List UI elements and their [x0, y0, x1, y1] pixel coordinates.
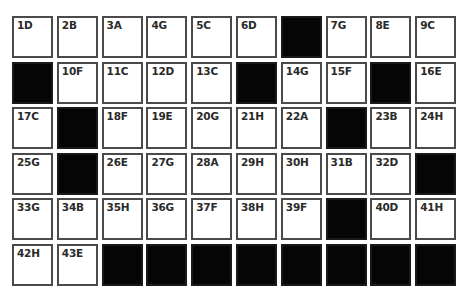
- cell-label: 6D: [241, 19, 257, 31]
- black-cell: [326, 244, 367, 286]
- grid-cell[interactable]: 13C: [191, 62, 232, 104]
- cell-label: 5C: [196, 19, 211, 31]
- cell-label: 25G: [17, 156, 40, 168]
- cell-label: 15F: [331, 65, 352, 77]
- cell-label: 27G: [151, 156, 174, 168]
- grid-cell[interactable]: 7G: [326, 16, 367, 58]
- grid-cell[interactable]: 22A: [281, 107, 322, 149]
- grid-cell[interactable]: 8E: [370, 16, 411, 58]
- cell-label: 14G: [286, 65, 309, 77]
- black-cell: [191, 244, 232, 286]
- cell-label: 22A: [286, 110, 308, 122]
- grid-cell[interactable]: 23B: [370, 107, 411, 149]
- cell-label: 18F: [107, 110, 128, 122]
- cell-label: 10F: [62, 65, 83, 77]
- grid-cell[interactable]: 21H: [236, 107, 277, 149]
- grid-cell[interactable]: 1D: [12, 16, 53, 58]
- grid-cell[interactable]: 30H: [281, 153, 322, 195]
- grid-cell[interactable]: 2B: [57, 16, 98, 58]
- grid-cell[interactable]: 9C: [415, 16, 456, 58]
- puzzle-grid: 1D2B3A4G5C6D7G8E9C10F11C12D13C14G15F16E1…: [12, 16, 456, 286]
- black-cell: [370, 62, 411, 104]
- black-cell: [370, 244, 411, 286]
- cell-label: 33G: [17, 201, 40, 213]
- grid-cell[interactable]: 24H: [415, 107, 456, 149]
- grid-cell[interactable]: 31B: [326, 153, 367, 195]
- black-cell: [236, 244, 277, 286]
- grid-cell[interactable]: 11C: [102, 62, 143, 104]
- cell-label: 13C: [196, 65, 218, 77]
- cell-label: 19E: [151, 110, 172, 122]
- cell-label: 16E: [420, 65, 441, 77]
- cell-label: 7G: [331, 19, 347, 31]
- cell-label: 37F: [196, 201, 217, 213]
- cell-label: 40D: [375, 201, 398, 213]
- black-cell: [326, 107, 367, 149]
- black-cell: [146, 244, 187, 286]
- grid-cell[interactable]: 39F: [281, 198, 322, 240]
- cell-label: 38H: [241, 201, 264, 213]
- black-cell: [326, 198, 367, 240]
- grid-cell[interactable]: 18F: [102, 107, 143, 149]
- cell-label: 20G: [196, 110, 219, 122]
- cell-label: 34B: [62, 201, 84, 213]
- cell-label: 24H: [420, 110, 443, 122]
- cell-label: 3A: [107, 19, 122, 31]
- grid-cell[interactable]: 42H: [12, 244, 53, 286]
- cell-label: 26E: [107, 156, 128, 168]
- cell-label: 32D: [375, 156, 398, 168]
- grid-cell[interactable]: 33G: [12, 198, 53, 240]
- grid-cell[interactable]: 10F: [57, 62, 98, 104]
- black-cell: [102, 244, 143, 286]
- grid-cell[interactable]: 5C: [191, 16, 232, 58]
- black-cell: [415, 244, 456, 286]
- cell-label: 11C: [107, 65, 129, 77]
- grid-cell[interactable]: 41H: [415, 198, 456, 240]
- cell-label: 8E: [375, 19, 389, 31]
- grid-cell[interactable]: 32D: [370, 153, 411, 195]
- grid-cell[interactable]: 26E: [102, 153, 143, 195]
- grid-cell[interactable]: 27G: [146, 153, 187, 195]
- cell-label: 36G: [151, 201, 174, 213]
- grid-cell[interactable]: 29H: [236, 153, 277, 195]
- cell-label: 2B: [62, 19, 77, 31]
- cell-label: 41H: [420, 201, 443, 213]
- grid-cell[interactable]: 20G: [191, 107, 232, 149]
- cell-label: 29H: [241, 156, 264, 168]
- grid-cell[interactable]: 4G: [146, 16, 187, 58]
- cell-label: 1D: [17, 19, 33, 31]
- cell-label: 21H: [241, 110, 264, 122]
- black-cell: [12, 62, 53, 104]
- grid-cell[interactable]: 25G: [12, 153, 53, 195]
- grid-cell[interactable]: 35H: [102, 198, 143, 240]
- cell-label: 9C: [420, 19, 435, 31]
- cell-label: 42H: [17, 247, 40, 259]
- cell-label: 35H: [107, 201, 130, 213]
- black-cell: [57, 153, 98, 195]
- black-cell: [415, 153, 456, 195]
- black-cell: [57, 107, 98, 149]
- grid-cell[interactable]: 3A: [102, 16, 143, 58]
- grid-cell[interactable]: 14G: [281, 62, 322, 104]
- grid-cell[interactable]: 43E: [57, 244, 98, 286]
- grid-cell[interactable]: 34B: [57, 198, 98, 240]
- grid-cell[interactable]: 16E: [415, 62, 456, 104]
- cell-label: 12D: [151, 65, 174, 77]
- black-cell: [281, 244, 322, 286]
- cell-label: 28A: [196, 156, 218, 168]
- grid-cell[interactable]: 37F: [191, 198, 232, 240]
- cell-label: 31B: [331, 156, 353, 168]
- black-cell: [236, 62, 277, 104]
- grid-cell[interactable]: 38H: [236, 198, 277, 240]
- grid-cell[interactable]: 19E: [146, 107, 187, 149]
- grid-cell[interactable]: 12D: [146, 62, 187, 104]
- grid-cell[interactable]: 15F: [326, 62, 367, 104]
- grid-cell[interactable]: 28A: [191, 153, 232, 195]
- cell-label: 39F: [286, 201, 307, 213]
- cell-label: 23B: [375, 110, 397, 122]
- grid-cell[interactable]: 40D: [370, 198, 411, 240]
- cell-label: 43E: [62, 247, 83, 259]
- grid-cell[interactable]: 6D: [236, 16, 277, 58]
- grid-cell[interactable]: 36G: [146, 198, 187, 240]
- grid-cell[interactable]: 17C: [12, 107, 53, 149]
